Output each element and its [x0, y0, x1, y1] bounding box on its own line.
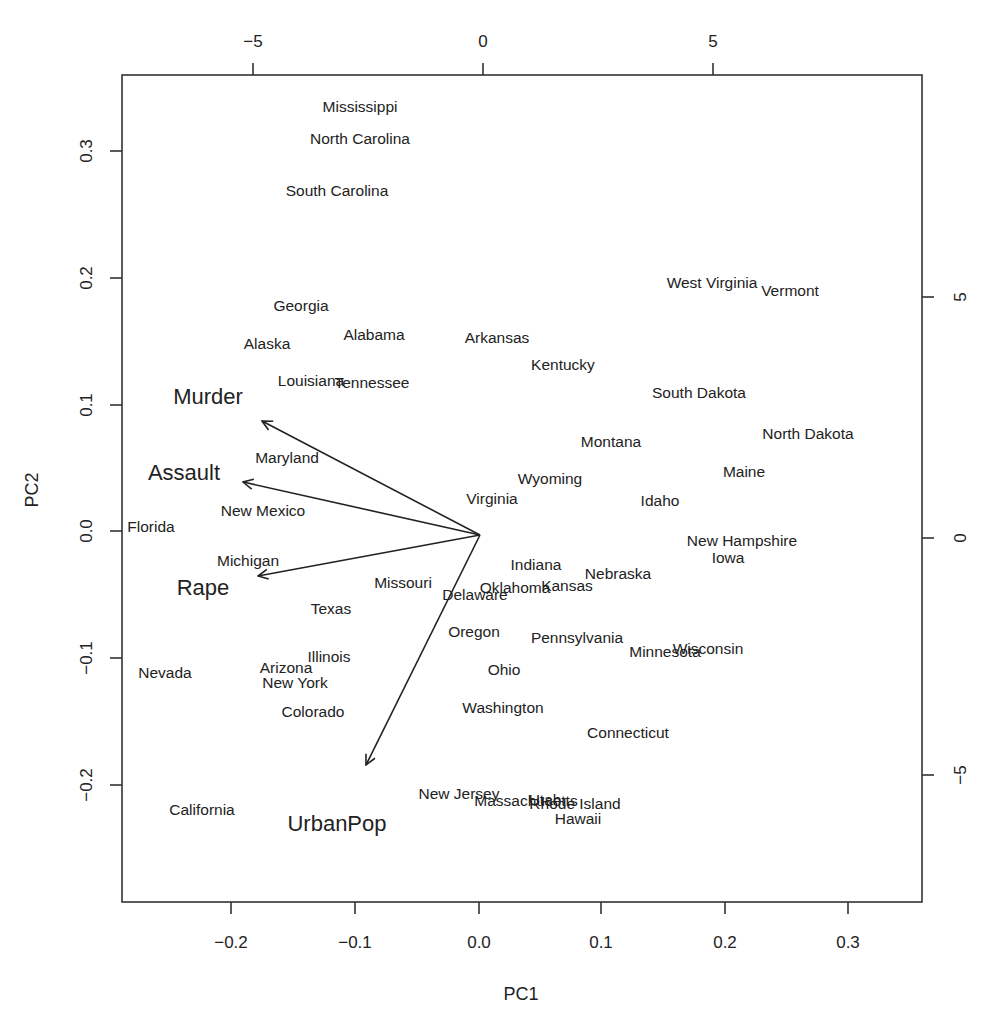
x-axis-top: −505 — [243, 32, 717, 75]
observation-labels: MississippiNorth CarolinaSouth CarolinaG… — [127, 98, 854, 827]
y-tick-label: 0.2 — [77, 266, 96, 290]
state-label: Illinois — [307, 648, 350, 665]
state-label: West Virginia — [667, 274, 758, 291]
state-label: Idaho — [641, 492, 680, 509]
state-label: Vermont — [761, 282, 819, 299]
state-label: Georgia — [273, 297, 329, 314]
state-label: Ohio — [488, 661, 521, 678]
x-tick-label: −0.2 — [214, 933, 248, 952]
state-label: Texas — [311, 600, 352, 617]
top-tick-label: −5 — [243, 32, 262, 51]
y-tick-label: −0.2 — [77, 768, 96, 802]
state-label: Nebraska — [585, 565, 652, 582]
y-axis-left: 0.30.20.10.0−0.1−0.2 — [77, 139, 122, 802]
plot-frame — [122, 75, 922, 902]
state-label: New York — [262, 674, 328, 691]
state-label: Iowa — [712, 549, 745, 566]
state-label: New Mexico — [221, 502, 305, 519]
state-label: Alabama — [343, 326, 405, 343]
state-label: Montana — [581, 433, 642, 450]
state-label: Indiana — [511, 556, 562, 573]
state-label: South Carolina — [286, 182, 389, 199]
state-label: North Dakota — [762, 425, 854, 442]
x-axis-title: PC1 — [503, 984, 538, 1004]
x-axis-bottom: −0.2−0.10.00.10.20.3 — [214, 902, 860, 952]
x-tick-label: 0.0 — [467, 933, 491, 952]
state-label: Alaska — [244, 335, 291, 352]
top-tick-label: 0 — [478, 32, 487, 51]
variable-label: Murder — [173, 384, 243, 409]
right-tick-label: 0 — [951, 533, 970, 542]
state-label: Wisconsin — [673, 640, 744, 657]
loading-arrow-rape — [258, 535, 480, 576]
y-tick-label: 0.0 — [77, 519, 96, 543]
loading-arrow-urbanpop — [366, 535, 480, 765]
state-label: Maine — [723, 463, 765, 480]
state-label: Missouri — [374, 574, 432, 591]
state-label: Wyoming — [518, 470, 582, 487]
state-label: Tennessee — [335, 374, 410, 391]
state-label: Oregon — [448, 623, 500, 640]
right-tick-label: −5 — [951, 765, 970, 784]
x-tick-label: 0.2 — [713, 933, 737, 952]
state-label: Virginia — [466, 490, 518, 507]
y-tick-label: 0.3 — [77, 139, 96, 163]
state-label: Nevada — [138, 664, 192, 681]
y-axis-title: PC2 — [22, 472, 42, 507]
state-label: Delaware — [442, 586, 507, 603]
state-label: New Hampshire — [687, 532, 797, 549]
state-label: Kentucky — [531, 356, 595, 373]
x-tick-label: 0.1 — [589, 933, 613, 952]
state-label: Maryland — [255, 449, 319, 466]
state-label: Michigan — [217, 552, 279, 569]
state-label: Colorado — [282, 703, 345, 720]
y-tick-label: 0.1 — [77, 393, 96, 417]
state-label: Hawaii — [555, 810, 602, 827]
biplot-chart: −0.2−0.10.00.10.20.3 0.30.20.10.0−0.1−0.… — [0, 0, 991, 1019]
state-label: Connecticut — [587, 724, 670, 741]
x-tick-label: −0.1 — [338, 933, 372, 952]
variable-label: UrbanPop — [287, 811, 386, 836]
variable-label: Assault — [148, 460, 220, 485]
state-label: Pennsylvania — [531, 629, 624, 646]
state-label: South Dakota — [652, 384, 746, 401]
state-label: Arkansas — [465, 329, 530, 346]
y-tick-label: −0.1 — [77, 641, 96, 675]
x-tick-label: 0.3 — [836, 933, 860, 952]
state-label: Mississippi — [323, 98, 398, 115]
right-tick-label: 5 — [951, 292, 970, 301]
top-tick-label: 5 — [708, 32, 717, 51]
state-label: Kansas — [541, 577, 593, 594]
y-axis-right: 50−5 — [922, 292, 970, 784]
state-label: North Carolina — [310, 130, 410, 147]
variable-label: Rape — [177, 575, 230, 600]
state-label: Florida — [127, 518, 175, 535]
state-label: California — [169, 801, 235, 818]
state-label: Washington — [462, 699, 543, 716]
